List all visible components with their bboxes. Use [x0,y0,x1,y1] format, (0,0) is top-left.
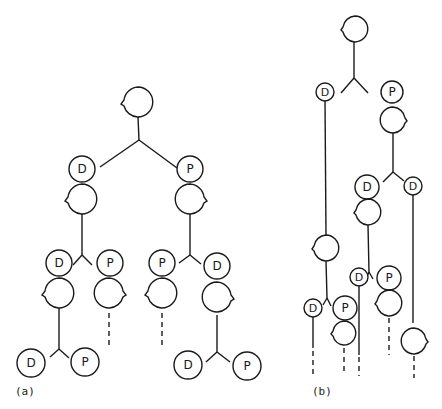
cell-label: D [54,256,63,270]
root-cell-blob-icon [341,16,368,42]
cell-d: D [204,253,230,279]
panel-b: D P D D [304,16,428,398]
cell-label: D [355,271,363,284]
cell-label: P [106,256,113,270]
panel-label-b: (b) [312,385,332,398]
cell-d: D [404,177,422,195]
cell-label: P [388,85,395,99]
cell-d: D [17,349,45,377]
cell-blob-icon [331,321,356,345]
cell-label: D [212,259,221,273]
cell-label: D [77,162,86,176]
cell-blob-icon [94,278,126,308]
panel-a: D P D P P [15,87,261,398]
cell-label: D [321,86,329,99]
cell-p: P [149,250,175,276]
cell-label: P [186,162,193,176]
cell-p: P [177,156,203,182]
root-cell-blob-icon [121,87,153,117]
lineage-diagram: D P D P P [0,0,442,409]
cell-label: P [81,355,88,369]
cell-p: P [333,296,357,320]
cell-blob-icon [312,235,339,261]
cell-d: D [69,156,95,182]
cell-d: D [304,299,322,317]
cell-blob-icon [354,199,381,225]
panel-label-a: (a) [15,385,35,398]
cell-d: D [46,250,72,276]
cell-blob-icon [202,282,234,312]
cell-label: P [385,271,392,285]
cell-blob-icon [65,184,97,214]
cell-label: D [362,180,371,194]
cell-d: D [350,268,368,286]
cell-p: P [97,250,123,276]
cell-label: P [158,256,165,270]
cell-label: D [409,180,417,193]
cell-d: D [174,351,202,379]
cell-blob-icon [375,290,402,316]
cell-d: D [355,175,379,199]
cell-label: D [309,302,317,315]
cell-blob-icon [380,107,407,133]
cell-p: P [71,348,99,376]
cell-label: P [341,301,348,315]
cell-p: P [381,81,403,103]
cell-blob-icon [145,278,177,308]
cell-p: P [377,266,401,290]
cell-blob-icon [42,278,74,308]
cell-label: D [183,358,192,372]
cell-d: D [316,83,334,101]
cell-p: P [233,352,261,380]
cell-label: P [243,359,250,373]
cell-label: D [26,356,35,370]
cell-blob-icon [175,184,207,214]
cell-blob-icon [401,328,428,354]
